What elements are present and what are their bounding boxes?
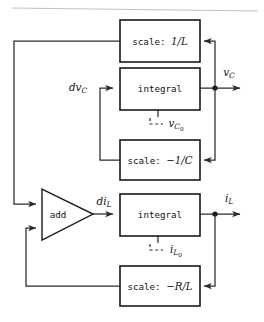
- wire-integral-bottom-output: [200, 211, 240, 216]
- signal-label-dil: diL: [97, 195, 112, 209]
- diagram-canvas: scale: 1/L integral scale: −1/C add inte…: [0, 0, 264, 322]
- wire-scale-invL-to-adder: [14, 41, 120, 204]
- svg-text:vC0: vC0: [168, 117, 184, 131]
- svg-text:diL: diL: [97, 195, 112, 209]
- block-scale-inv-L[interactable]: scale: 1/L: [120, 20, 200, 62]
- block-adder-label: add: [50, 209, 67, 220]
- svg-text:iL0: iL0: [170, 243, 182, 257]
- wire-il-to-scale-negRL: [204, 214, 215, 286]
- svg-text:vC: vC: [223, 66, 235, 80]
- svg-text:dvC: dvC: [69, 81, 88, 95]
- block-integral-bottom[interactable]: integral: [120, 194, 200, 236]
- block-scale-inv-L-label: scale: 1/L: [132, 36, 188, 48]
- block-integral-top[interactable]: integral: [120, 68, 200, 110]
- svg-text:iL: iL: [225, 192, 233, 206]
- wire-vc-to-scale-invL: [204, 41, 215, 88]
- signal-label-vc0: vC0: [168, 117, 184, 131]
- block-diagram-figure: scale: 1/L integral scale: −1/C add inte…: [0, 0, 264, 322]
- wire-scale-neginvC-to-integral-top: [100, 88, 120, 160]
- signal-label-il-out: iL: [225, 192, 233, 206]
- block-integral-top-label: integral: [138, 83, 182, 94]
- page-rule-line: [12, 8, 258, 11]
- block-scale-neg-R-over-L[interactable]: scale: −R/L: [120, 266, 200, 306]
- signal-label-dvc: dvC: [69, 81, 88, 95]
- wire-scale-negRL-to-adder: [26, 228, 120, 286]
- block-scale-neg-R-over-L-label: scale: −R/L: [127, 281, 192, 293]
- block-adder[interactable]: add: [42, 189, 93, 240]
- signal-label-vc-out: vC: [223, 66, 235, 80]
- wire-vc-to-scale-neginvC: [204, 88, 215, 160]
- wire-integral-top-output: [200, 85, 240, 90]
- block-scale-neg-inv-C-label: scale: −1/C: [128, 155, 193, 167]
- block-scale-neg-inv-C[interactable]: scale: −1/C: [120, 140, 200, 180]
- signal-label-il0: iL0: [170, 243, 182, 257]
- block-integral-bottom-label: integral: [138, 209, 182, 220]
